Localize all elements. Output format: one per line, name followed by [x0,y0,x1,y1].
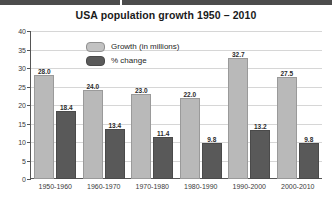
bar-value-label: 32.7 [232,51,245,58]
y-axis-tick-label: 15 [4,120,26,127]
x-axis-tick-label: 1970-1980 [136,183,169,190]
bar-value-label: 28.0 [38,68,51,75]
bar: 27.5 [277,77,297,179]
bar: 22.0 [180,98,200,179]
bar-value-label: 13.2 [254,123,267,130]
bar: 9.8 [299,143,319,179]
bar: 18.4 [56,111,76,179]
y-axis-line [30,31,31,180]
chart-legend: Growth (in millions)% change [86,41,179,69]
x-axis-tick-label: 1960-1970 [87,183,120,190]
bar-value-label: 24.0 [86,83,99,90]
bar-value-label: 9.8 [304,136,313,143]
y-axis-tick-label: 40 [4,28,26,35]
legend-color-swatch [86,42,105,52]
chart-figure: USA population growth 1950 – 2010 051015… [0,5,332,201]
x-axis-tick-label: 1990-2000 [233,183,266,190]
y-axis-tick-label: 0 [4,176,26,183]
bar: 9.8 [202,143,222,179]
bar-value-label: 11.4 [157,130,169,137]
y-axis-tick-label: 35 [4,46,26,53]
bar: 11.4 [153,137,173,179]
bar-value-label: 18.4 [60,104,73,111]
bar: 32.7 [228,58,248,179]
y-axis-tick-label: 30 [4,65,26,72]
y-axis-tick-label: 10 [4,139,26,146]
x-axis-tick-label: 1980-1990 [184,183,217,190]
chart-title: USA population growth 1950 – 2010 [0,9,332,21]
x-axis-tick-label: 2000-2010 [281,183,314,190]
bar: 13.2 [250,130,270,179]
y-axis-tick-label: 5 [4,157,26,164]
legend-item: % change [86,55,179,66]
legend-label: % change [111,56,147,65]
bar-value-label: 13.4 [108,122,121,129]
legend-item: Growth (in millions) [86,41,179,52]
bar: 24.0 [83,90,103,179]
y-axis-tick-label: 20 [4,102,26,109]
legend-label: Growth (in millions) [111,42,179,51]
bar: 23.0 [131,94,151,179]
y-axis-tick-label: 25 [4,83,26,90]
bar: 13.4 [105,129,125,179]
bar: 28.0 [34,75,54,179]
bar-value-label: 27.5 [280,70,293,77]
bar-value-label: 9.8 [207,136,216,143]
x-axis-tick-label: 1950-1960 [39,183,72,190]
legend-color-swatch [86,56,105,66]
bar-value-label: 23.0 [135,87,148,94]
bar-value-label: 22.0 [183,91,196,98]
